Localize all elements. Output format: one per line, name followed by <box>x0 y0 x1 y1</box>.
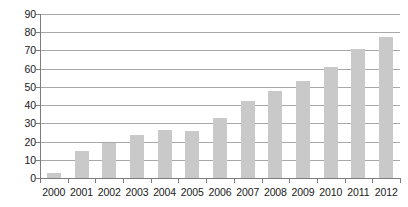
plot-area <box>40 14 400 178</box>
y-axis-label-80: 80 <box>6 27 36 37</box>
gridline-40 <box>40 105 400 106</box>
gridline-60 <box>40 69 400 70</box>
x-axis-tick-4 <box>151 178 152 183</box>
y-axis-label-40: 40 <box>6 100 36 110</box>
bar-2003 <box>130 135 144 178</box>
y-axis-tick-10 <box>36 160 41 161</box>
x-axis-label-2008: 2008 <box>260 186 290 198</box>
y-axis-tick-70 <box>36 50 41 51</box>
x-axis-tick-11 <box>345 178 346 183</box>
x-axis-tick-7 <box>234 178 235 183</box>
x-axis-tick-3 <box>123 178 124 183</box>
x-axis-tick-1 <box>68 178 69 183</box>
bar-2010 <box>324 67 338 178</box>
y-axis-label-60: 60 <box>6 64 36 74</box>
bar-2002 <box>102 143 116 178</box>
x-axis-label-2001: 2001 <box>67 186 97 198</box>
x-axis-tick-9 <box>289 178 290 183</box>
x-axis-tick-6 <box>206 178 207 183</box>
bar-2006 <box>213 118 227 178</box>
y-axis-label-10: 10 <box>6 155 36 165</box>
bar-2011 <box>351 49 365 178</box>
x-axis-label-2012: 2012 <box>371 186 401 198</box>
bar-2005 <box>185 131 199 178</box>
bar-2004 <box>158 130 172 178</box>
bar-2000 <box>47 173 61 178</box>
y-axis-tick-30 <box>36 123 41 124</box>
x-axis-label-2003: 2003 <box>122 186 152 198</box>
bar-2008 <box>268 91 282 178</box>
gridline-0 <box>40 178 400 179</box>
x-axis-label-2002: 2002 <box>94 186 124 198</box>
x-axis-tick-12 <box>372 178 373 183</box>
x-axis-label-2011: 2011 <box>343 186 373 198</box>
gridline-90 <box>40 14 400 15</box>
x-axis-label-2006: 2006 <box>205 186 235 198</box>
y-axis-tick-80 <box>36 32 41 33</box>
x-axis-tick-end <box>400 178 401 183</box>
y-axis-tick-40 <box>36 105 41 106</box>
y-axis-label-0: 0 <box>6 173 36 183</box>
x-axis-tick-5 <box>178 178 179 183</box>
y-axis-label-70: 70 <box>6 45 36 55</box>
x-axis-tick-10 <box>317 178 318 183</box>
y-axis-tick-50 <box>36 87 41 88</box>
x-axis-tick-2 <box>95 178 96 183</box>
x-axis-label-2010: 2010 <box>316 186 346 198</box>
x-axis-label-2007: 2007 <box>233 186 263 198</box>
gridline-50 <box>40 87 400 88</box>
bar-2009 <box>296 81 310 178</box>
y-axis-label-90: 90 <box>6 9 36 19</box>
y-axis-label-30: 30 <box>6 118 36 128</box>
y-axis-label-50: 50 <box>6 82 36 92</box>
x-axis-label-2009: 2009 <box>288 186 318 198</box>
bar-2012 <box>379 37 393 178</box>
x-axis-label-2000: 2000 <box>39 186 69 198</box>
bar-2001 <box>75 151 89 178</box>
y-axis-tick-20 <box>36 142 41 143</box>
bar-chart: 0102030405060708090200020012002200320042… <box>0 0 408 207</box>
x-axis-tick-0 <box>40 178 41 183</box>
x-axis-label-2005: 2005 <box>177 186 207 198</box>
y-axis-tick-90 <box>36 14 41 15</box>
x-axis-label-2004: 2004 <box>150 186 180 198</box>
y-axis-label-20: 20 <box>6 137 36 147</box>
gridline-80 <box>40 32 400 33</box>
x-axis-tick-8 <box>262 178 263 183</box>
gridline-70 <box>40 50 400 51</box>
bar-2007 <box>241 101 255 178</box>
y-axis-tick-60 <box>36 69 41 70</box>
